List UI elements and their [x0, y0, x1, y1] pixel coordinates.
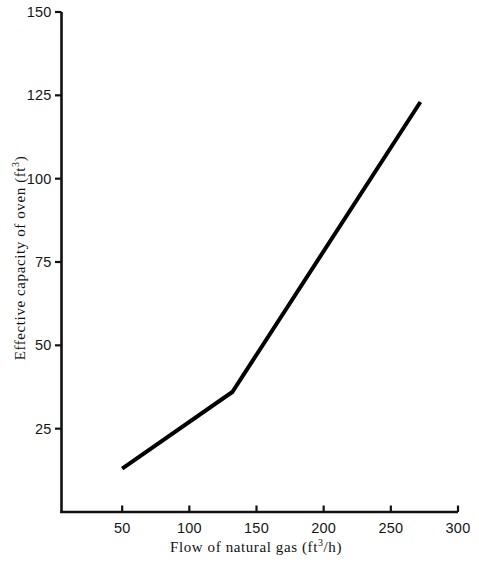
x-tick-label: 100: [177, 521, 202, 536]
y-axis-title-superscript: 3: [10, 161, 21, 167]
chart-figure: 255075100125150 50100150200250300 Flow o…: [0, 0, 479, 563]
x-axis-title: Flow of natural gas (ft3/h): [170, 540, 342, 555]
plot-area: [0, 0, 479, 563]
y-tick-label: 75: [35, 255, 52, 270]
x-axis-title-text-tail: /h): [324, 539, 342, 555]
x-tick-label: 150: [244, 521, 269, 536]
x-tick-label: 200: [311, 521, 336, 536]
y-tick-label: 50: [35, 338, 52, 353]
y-tick-label: 150: [27, 5, 52, 20]
y-axis-title-text-tail: ): [12, 156, 28, 162]
y-tick-label: 25: [35, 421, 52, 436]
axis-lines: [60, 12, 458, 513]
x-tick-label: 300: [446, 521, 471, 536]
y-axis-title-text: Effective capacity of oven (ft: [12, 167, 28, 360]
y-axis-title: Effective capacity of oven (ft3): [13, 156, 28, 361]
x-tick-label: 50: [114, 521, 131, 536]
y-tick-label: 125: [27, 88, 52, 103]
axis-ticks: [55, 12, 458, 512]
data-series: [122, 102, 420, 469]
x-tick-label: 250: [378, 521, 403, 536]
x-axis-title-text: Flow of natural gas (ft: [170, 539, 318, 555]
y-tick-label: 100: [27, 171, 52, 186]
